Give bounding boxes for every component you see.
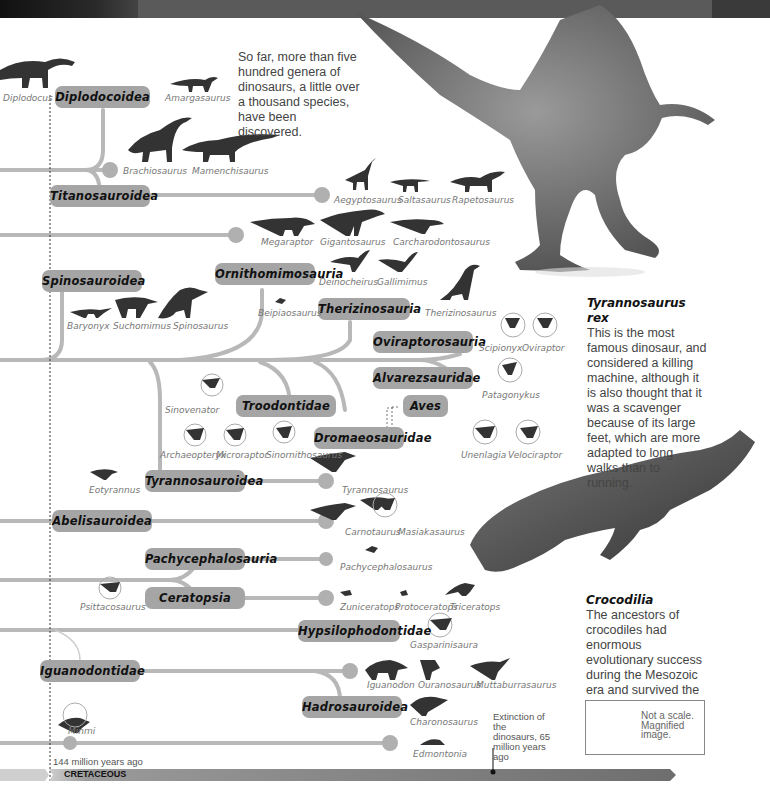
clade-ceratopsia: Ceratopsia (145, 587, 245, 609)
genus-masiakasaurus: Masiakasaurus (398, 527, 465, 537)
clade-pachycephalosauria: Pachycephalosauria (145, 548, 245, 570)
genus-rapetosaurus: Rapetosaurus (452, 195, 514, 205)
genus-carcharodontosaurus: Carcharodontosaurus (393, 237, 490, 247)
clade-abelisauroidea: Abelisauroidea (52, 510, 152, 532)
trex-note-title: Tyrannosaurus rex (587, 296, 707, 326)
genus-scipionyx: Scipionyx (479, 343, 522, 353)
genus-megaraptor: Megaraptor (261, 237, 313, 247)
genus-oviraptor: Oviraptor (522, 343, 565, 353)
genus-spinosaurus: Spinosaurus (173, 321, 228, 331)
genus-muttaburrasaurus: Muttaburrasaurus (476, 680, 556, 690)
genus-saltasaurus: Saltasaurus (398, 195, 451, 205)
trex-note-body: This is the most famous dinosaur, and co… (587, 326, 707, 490)
genus-therizinosaurus: Therizinosaurus (425, 308, 496, 318)
clade-troodontidae: Troodontidae (236, 395, 336, 417)
genus-diplodocus: Diplodocus (3, 93, 53, 103)
genus-patagonykus: Patagonykus (482, 390, 540, 400)
genus-iguanodon: Iguanodon (367, 680, 415, 690)
genus-carnotaurus: Carnotaurus (345, 527, 401, 537)
genus-eotyrannus: Eotyrannus (89, 485, 140, 495)
genus-beipiaosaurus: Beipiaosaurus (258, 308, 321, 318)
genus-unenlagia: Unenlagia (461, 450, 506, 460)
clade-aves: Aves (403, 395, 448, 417)
genus-velociraptor: Velociraptor (508, 450, 562, 460)
genus-gasparinisaura: Gasparinisaura (410, 640, 478, 650)
genus-edmontonia: Edmontonia (413, 749, 467, 759)
intro-text: So far, more than five hundred genera of… (238, 50, 363, 140)
genus-amargasaurus: Amargasaurus (165, 93, 230, 103)
croc-note-title: Crocodilia (586, 593, 706, 608)
clade-hadrosauroidea: Hadrosauroidea (302, 696, 402, 718)
genus-ouranosaurus: Ouranosaurus (418, 680, 481, 690)
legend-text: Not a scale. Magnified image. (641, 711, 696, 740)
genus-psittacosaurus: Psittacosaurus (80, 602, 146, 612)
genus-deinocheirus: Deinocheirus (319, 277, 378, 287)
genus-tyrannosaurus: Tyrannosaurus (342, 485, 408, 495)
clade-tyrannosauroidea: Tyrannosauroidea (145, 470, 245, 492)
magnifier-plus-icon (598, 708, 636, 748)
start-date-label: 144 million years ago (53, 757, 143, 767)
genus-sinovenator: Sinovenator (165, 405, 219, 415)
clade-titanosauroidea: Titanosauroidea (50, 185, 150, 207)
genus-gigantosaurus: Gigantosaurus (320, 237, 385, 247)
genus-gallimimus: Gallimimus (377, 277, 427, 287)
genus-microraptor: Microraptor (216, 450, 268, 460)
genus-aegyptosaurus: Aegyptosaurus (334, 195, 401, 205)
genus-charonosaurus: Charonosaurus (410, 717, 478, 727)
clade-diplodocoidea: Diplodocoidea (55, 86, 150, 108)
clade-dromaeosauridae: Dromaeosauridae (314, 427, 404, 449)
clade-alvarezsauridae: Alvarezsauridae (373, 367, 473, 389)
genus-protoceratops: Protoceratops (395, 602, 458, 612)
genus-brachiosaurus: Brachiosaurus (123, 166, 187, 176)
genus-pachycephalosaurus: Pachycephalosaurus (340, 562, 432, 572)
clade-ornithomimosauria: Ornithomimosauria (215, 263, 315, 285)
genus-sinornithosaurus: Sinornithosaurus (266, 450, 342, 460)
genus-zuniceratops: Zuniceratops (340, 602, 399, 612)
extinction-label: Extinction of the dinosaurs, 65 million … (493, 712, 551, 762)
genus-mamenchisaurus: Mamenchisaurus (192, 166, 268, 176)
clade-oviraptorosauria: Oviraptorosauria (373, 331, 473, 353)
clade-spinosauroidea: Spinosauroidea (42, 270, 142, 292)
genus-baryonyx: Baryonyx (67, 321, 110, 331)
clade-iguanodontidae: Iguanodontidae (40, 660, 140, 682)
trex-note: Tyrannosaurus rex This is the most famou… (587, 296, 707, 491)
clade-hypsilophodontidae: Hypsilophodontidae (298, 620, 400, 642)
genus-suchomimus: Suchomimus (113, 321, 171, 331)
clade-therizinosauria: Therizinosauria (318, 298, 410, 320)
era-label: CRETACEOUS (64, 768, 126, 781)
genus-triceratops: Triceratops (450, 602, 500, 612)
genus-minmi: Minmi (68, 726, 95, 736)
